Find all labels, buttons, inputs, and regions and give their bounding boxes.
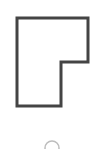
loading-arc-icon — [45, 141, 59, 149]
canvas — [0, 0, 111, 149]
l-shape-outline — [17, 18, 88, 106]
shape-canvas — [0, 0, 111, 149]
